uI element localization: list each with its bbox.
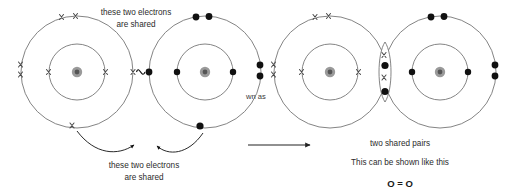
electron-dot [465,69,471,75]
electron-cross [104,70,108,75]
electron-dot [428,14,435,21]
oxygen-atom-left-a [19,14,136,129]
nucleus [72,67,82,77]
formula-label: O = O [387,178,413,189]
right-diagram-group: two shared pairs This can be shown like … [272,13,499,188]
left-diagram-group: these two electrons are shared these two… [19,8,264,182]
diagram-canvas: these two electrons are shared these two… [0,0,514,193]
oxygen-molecule-atom-b [384,13,498,128]
squiggle-connector [137,70,146,75]
electron-dot [174,69,180,75]
electron-cross [19,72,23,77]
electron-cross [47,70,51,75]
electron-dot [257,62,264,69]
electron-dot-unpaired [196,122,203,129]
right-subcaption: This can be shown like this [351,158,449,167]
nucleus [200,67,210,77]
electron-dot [257,73,264,80]
electron-dot [193,14,200,21]
shared-electron-dot [381,62,388,69]
electron-dot [492,62,499,69]
right-caption: two shared pairs [370,139,430,148]
bottom-label-line1: these two electrons [109,161,180,170]
nucleus [325,67,335,77]
oxygen-atom-left-b [146,13,264,130]
electron-dot [492,73,499,80]
covalent-bonding-diagram: these two electrons are shared these two… [0,0,514,193]
electron-cross [300,70,304,75]
oxygen-molecule-atom-a [272,14,387,129]
electron-cross [313,15,317,20]
shared-electron-lens [379,42,391,102]
top-label-line2: are shared [116,20,156,29]
clipped-text-fragment: wn as [245,92,266,101]
electron-dot [441,13,448,20]
electron-cross [60,15,64,20]
electron-cross [272,72,276,77]
electron-cross-unpaired [70,123,74,128]
top-label-line1: these two electrons [101,8,172,17]
electron-dot-unpaired [146,69,153,76]
electron-dot [409,69,415,75]
curved-arrow-right [157,133,203,152]
shared-electron-dot [381,88,388,95]
electron-dot [206,13,213,20]
curved-arrow-left [77,131,134,152]
electron-dot [230,69,236,75]
nucleus [435,67,445,77]
electron-cross [357,70,361,75]
bottom-label-line2: are shared [124,173,164,182]
